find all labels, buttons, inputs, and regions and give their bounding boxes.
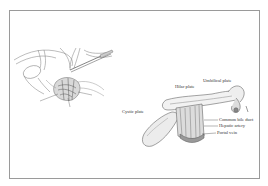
label-hepatic-artery: Hepatic artery	[219, 124, 245, 129]
label-umbilical-plate: Umbilical plate	[203, 79, 231, 84]
illustration-canvas	[0, 0, 268, 186]
label-hilar-plate: Hilar plate	[175, 85, 195, 90]
surgical-view-illustration	[14, 48, 113, 107]
label-portal-vein: Portal vein	[217, 131, 237, 136]
label-cystic-plate: Cystic plate	[122, 110, 144, 115]
label-common-bile-duct: Common bile duct	[219, 118, 253, 123]
